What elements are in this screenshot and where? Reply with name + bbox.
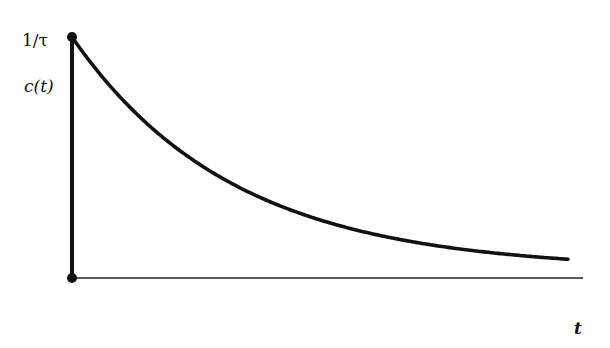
y-axis-label: c(t) <box>24 76 54 96</box>
exponential-decay-chart <box>0 0 610 348</box>
y-tick-label: 1/τ <box>22 30 48 50</box>
initial-value-point <box>67 32 77 42</box>
origin-point <box>67 273 77 283</box>
x-axis-label: t <box>574 318 582 338</box>
decay-curve <box>72 37 568 259</box>
